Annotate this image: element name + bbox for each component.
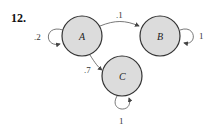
edge-b-b: 1 (180, 29, 204, 43)
edge-label: .7 (84, 65, 91, 75)
state-diagram: .2 .1 .7 1 1 A B C (0, 0, 211, 131)
edge-label: 1 (199, 31, 204, 41)
node-a: A (62, 16, 102, 56)
node-label: A (78, 31, 86, 42)
edge-label: 1 (119, 116, 124, 126)
node-c: C (102, 56, 142, 96)
edge-a-a: .2 (34, 29, 63, 44)
edge-c-c: 1 (115, 96, 130, 126)
node-b: B (140, 16, 180, 56)
edge-label: .2 (34, 32, 41, 42)
node-label: C (119, 71, 126, 82)
edge-a-c: .7 (84, 55, 102, 75)
edge-a-b: .1 (100, 10, 139, 26)
edge-label: .1 (116, 10, 123, 20)
node-label: B (157, 31, 163, 42)
